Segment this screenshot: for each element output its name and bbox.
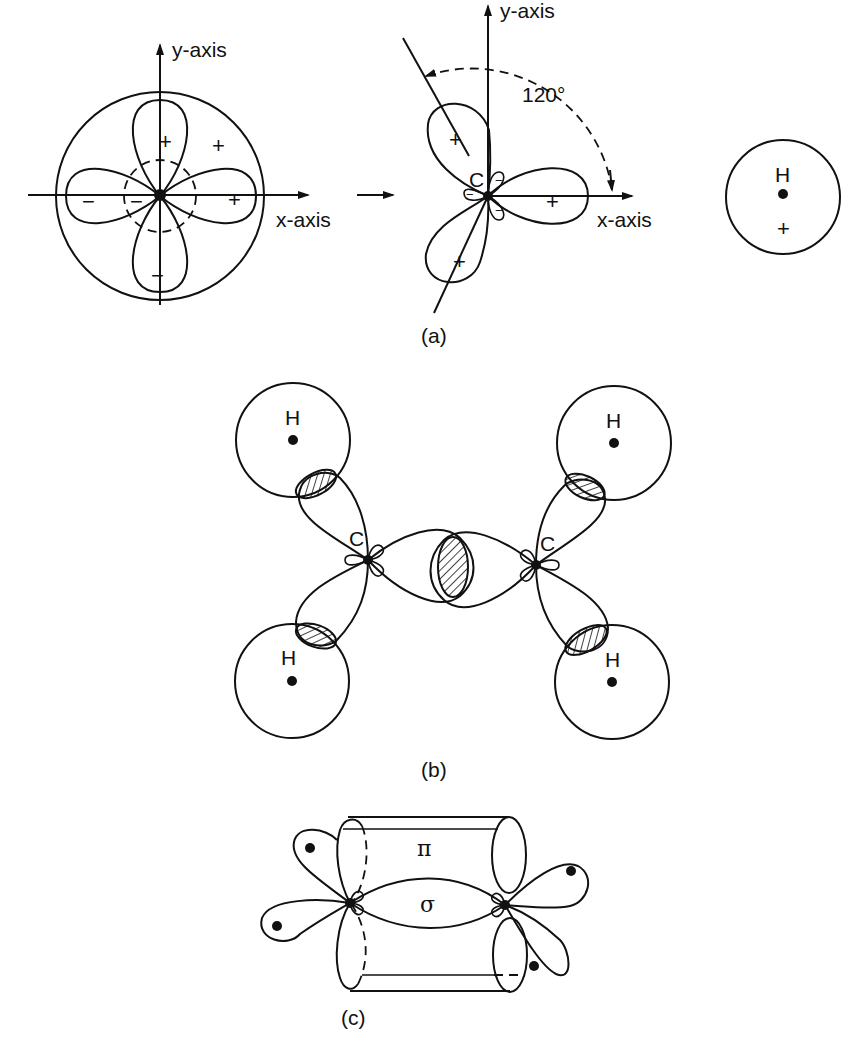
hydrogen-label: H — [606, 409, 621, 432]
panel-a-middle-sp2: y-axis x-axis C 120° + + + − − − (a) — [403, 0, 652, 347]
x-axis-label: x-axis — [597, 208, 652, 231]
sign-upper-lobe: + — [449, 127, 462, 152]
carbon-label: C — [540, 532, 555, 555]
hydrogen-label: H — [281, 646, 296, 669]
pi-lobe-right-bottom — [493, 918, 527, 992]
panel-a-right-hydrogen: H + — [726, 140, 840, 254]
hydrogen-dot — [566, 866, 576, 876]
overlap-region-ch — [561, 619, 612, 661]
panel-a-left-orbitals: y-axis x-axis + + + − − − — [28, 38, 331, 305]
angle-label: 120° — [522, 83, 565, 106]
sigma-label: σ — [420, 892, 435, 917]
hydrogen-label: H — [775, 163, 790, 186]
x-axis-label: x-axis — [276, 208, 331, 231]
panel-c-caption: (c) — [341, 1006, 366, 1029]
hydrogen-label: H — [605, 648, 620, 671]
hydrogen-dot — [607, 677, 617, 687]
sign-right-lobe: + — [228, 187, 241, 212]
carbon-dot — [500, 900, 510, 910]
pi-lobe-right-top — [492, 817, 526, 893]
sign-lower-lobe: + — [453, 249, 466, 274]
carbon-dot — [363, 555, 373, 565]
hydrogen-dot — [288, 435, 298, 445]
nucleus-dot — [154, 189, 166, 201]
carbon-label: C — [349, 527, 364, 550]
angle-arc-end-arrow — [610, 170, 612, 190]
sign-upper-right: + — [212, 133, 225, 158]
hybrid-lobe-h — [294, 830, 350, 903]
y-axis-label: y-axis — [172, 38, 227, 61]
overlap-region-cc — [438, 537, 468, 597]
hydrogen-dot — [529, 961, 539, 971]
carbon-nucleus-dot — [483, 191, 493, 201]
hydrogen-dot — [272, 921, 282, 931]
panel-b-ethylene-sigma: H H H H C C (b) — [235, 383, 671, 781]
panel-b-caption: (b) — [421, 758, 447, 781]
carbon-dot — [345, 898, 355, 908]
panel-c-pi-sigma-bond: π σ (c) — [261, 817, 588, 1029]
pi-lobe-left-bottom-hidden — [352, 905, 366, 984]
sign-small-left: − — [466, 187, 474, 202]
sign-small-down: − — [495, 203, 503, 218]
sign-left-lobe: − — [82, 189, 95, 214]
hydrogen-label: H — [285, 406, 300, 429]
hydrogen-dot — [305, 843, 315, 853]
sign-inner-left: − — [130, 189, 143, 214]
hydrogen-dot — [609, 438, 619, 448]
y-axis-label: y-axis — [500, 0, 555, 22]
carbon-dot — [531, 560, 541, 570]
pi-label: π — [417, 836, 431, 861]
sign-small-up: − — [495, 173, 503, 188]
hydrogen-sign: + — [777, 216, 790, 241]
panel-a-caption: (a) — [421, 324, 447, 347]
sign-right-lobe: + — [546, 189, 559, 214]
sign-bottom-lobe: − — [151, 263, 164, 288]
hydrogen-dot — [287, 676, 297, 686]
sign-top-lobe: + — [159, 129, 172, 154]
hydrogen-nucleus-dot — [778, 189, 788, 199]
pi-lobe-left-bottom — [337, 903, 358, 989]
hybridization-diagram: y-axis x-axis + + + − − − y-axis x-axis … — [0, 0, 862, 1051]
hybrid-lobe-h — [261, 900, 350, 941]
